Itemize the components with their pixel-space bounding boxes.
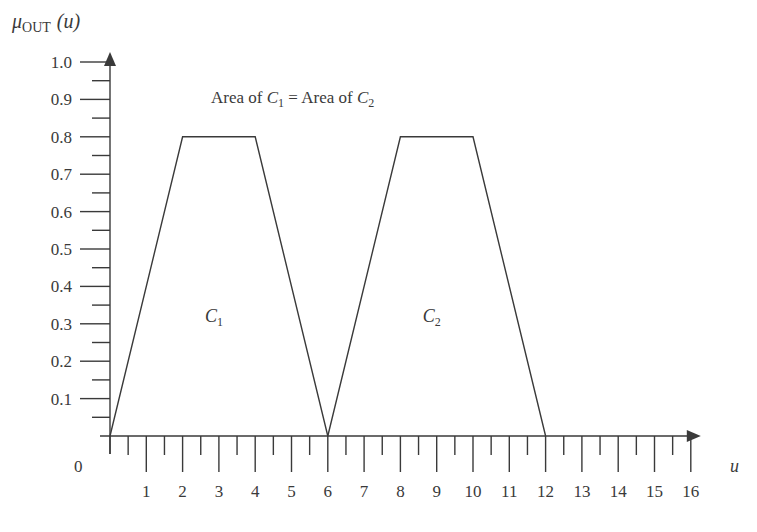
y-tick-label: 0.3 — [51, 315, 72, 334]
x-tick-label: 1 — [142, 482, 151, 501]
x-tick-label: 15 — [646, 482, 663, 501]
y-tick-label: 0.1 — [51, 390, 72, 409]
y-axis-arrow-icon — [104, 52, 116, 66]
x-axis-label: u — [730, 456, 739, 476]
membership-c1 — [110, 137, 328, 436]
y-tick-label: 0.2 — [51, 352, 72, 371]
x-tick-label: 10 — [465, 482, 482, 501]
y-tick-label: 0.7 — [51, 165, 73, 184]
x-tick-label: 8 — [396, 482, 405, 501]
fuzzy-output-chart: μOUT(u) Area of C1 = Area of C2 0 u 0.10… — [0, 0, 757, 532]
series-label-c1: C1 — [205, 306, 223, 329]
y-axis-label: μOUT(u) — [11, 10, 80, 35]
series-group — [110, 137, 546, 436]
x-tick-label: 2 — [178, 482, 187, 501]
membership-c2 — [328, 137, 546, 436]
y-tick-label: 0.8 — [51, 128, 72, 147]
x-tick-label: 14 — [610, 482, 628, 501]
area-annotation: Area of C1 = Area of C2 — [211, 88, 374, 110]
x-tick-label: 13 — [573, 482, 590, 501]
y-tick-label: 1.0 — [51, 53, 72, 72]
ticks — [80, 62, 691, 472]
x-tick-label: 11 — [501, 482, 517, 501]
x-tick-label: 6 — [324, 482, 333, 501]
y-tick-label: 0.5 — [51, 240, 72, 259]
x-tick-label: 16 — [682, 482, 699, 501]
x-tick-label: 7 — [360, 482, 369, 501]
series-label-c2: C2 — [423, 306, 441, 329]
x-tick-label: 9 — [432, 482, 441, 501]
x-tick-label: 5 — [287, 482, 296, 501]
x-tick-label: 3 — [215, 482, 224, 501]
axes — [100, 52, 701, 454]
x-axis-arrow-icon — [687, 430, 701, 442]
x-tick-label: 4 — [251, 482, 260, 501]
y-tick-label: 0.9 — [51, 90, 72, 109]
x-tick-label: 12 — [537, 482, 554, 501]
origin-label: 0 — [74, 457, 83, 476]
y-tick-label: 0.6 — [51, 203, 72, 222]
labels: μOUT(u) Area of C1 = Area of C2 0 u 0.10… — [11, 10, 739, 501]
y-tick-label: 0.4 — [51, 277, 73, 296]
